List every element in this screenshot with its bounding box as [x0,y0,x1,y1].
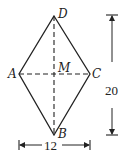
center-label-m: M [57,61,71,75]
vertex-label-a: A [7,67,17,81]
vertex-label-c: C [92,67,101,81]
horizontal-dim-label: 12 [44,138,57,153]
rhombus-diagram: D A C B M 20 12 [0,0,127,158]
vertex-label-d: D [57,7,68,21]
vertical-dim-label: 20 [105,83,118,98]
vertex-label-b: B [57,127,67,141]
